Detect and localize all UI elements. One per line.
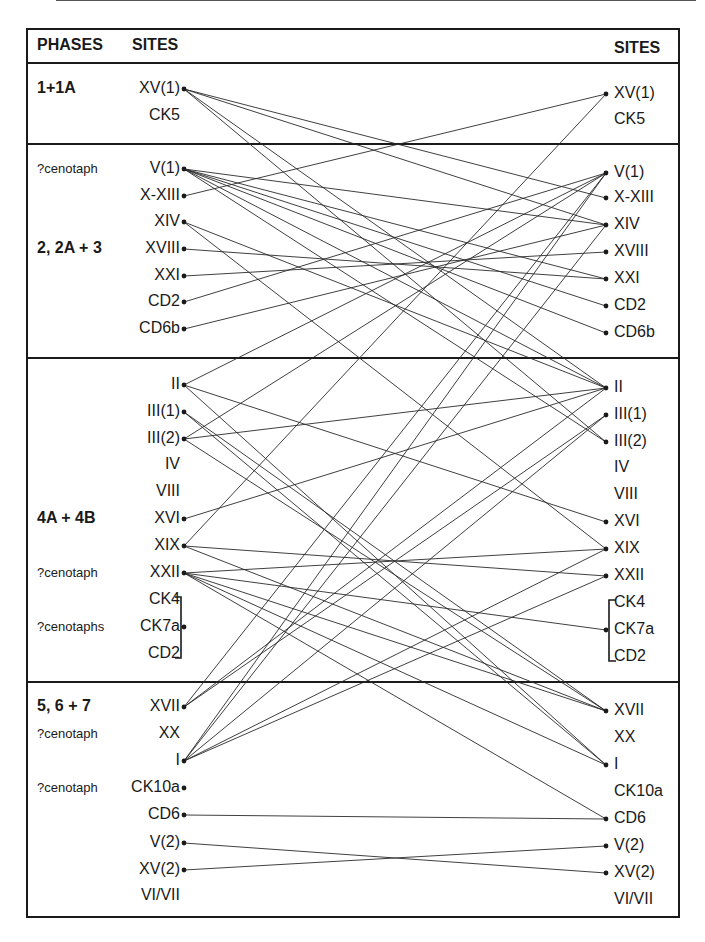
connection-line (184, 415, 606, 707)
site-dot (604, 628, 609, 633)
left-site-label: XVIII (145, 239, 180, 257)
left-site-label: CD2 (148, 292, 180, 310)
site-dot (604, 223, 609, 228)
right-site-label: XVI (614, 512, 640, 530)
site-dot (604, 304, 609, 309)
connection-line (184, 549, 606, 761)
left-site-label: CD6 (148, 805, 180, 823)
connection-line (184, 388, 606, 707)
right-site-label: XXI (614, 269, 640, 287)
left-site-label: XVII (150, 697, 180, 715)
left-site-label: X-XIII (140, 186, 180, 204)
right-site-label: CK7a (614, 620, 654, 638)
left-site-label: CD2 (148, 644, 180, 662)
site-dot (604, 440, 609, 445)
connection-line (184, 388, 606, 519)
left-site-label: XXII (150, 563, 180, 581)
right-site-label: VIII (614, 485, 638, 503)
connection-line (184, 89, 606, 388)
phase-label: 1+1A (37, 79, 76, 97)
left-site-label: VI/VII (141, 886, 180, 904)
connection-line (184, 846, 606, 870)
site-dot (182, 544, 187, 549)
right-site-label: XIV (614, 215, 640, 233)
connection-line (184, 169, 606, 333)
site-dot (182, 786, 187, 791)
site-dot (604, 250, 609, 255)
site-dot (182, 437, 187, 442)
right-site-label: VI/VII (614, 890, 653, 908)
left-site-label: V(1) (150, 159, 180, 177)
cenotaph-note: ?cenotaph (37, 565, 98, 580)
site-dot (604, 574, 609, 579)
site-dot (604, 547, 609, 552)
site-dot (604, 171, 609, 176)
right-site-label: I (614, 755, 618, 773)
site-dot (182, 300, 187, 305)
cenotaph-note: ?cenotaph (37, 780, 98, 795)
right-site-label: IV (614, 458, 629, 476)
cenotaph-note: ?cenotaph (37, 161, 98, 176)
site-dot (182, 327, 187, 332)
site-dot (182, 220, 187, 225)
connection-line (184, 815, 606, 819)
site-dot (182, 759, 187, 764)
left-site-label: II (171, 375, 180, 393)
left-site-label: XV(2) (139, 860, 180, 878)
connection-line (184, 169, 606, 279)
site-dot (182, 517, 187, 522)
connection-line (184, 173, 606, 302)
left-site-label: CK7a (140, 617, 180, 635)
site-dot (182, 383, 187, 388)
left-site-label: CD6b (139, 319, 180, 337)
phase-label: 2, 2A + 3 (37, 239, 102, 257)
left-site-label: V(2) (150, 833, 180, 851)
site-dot (604, 386, 609, 391)
site-dot (182, 247, 187, 252)
right-site-label: XXII (614, 566, 644, 584)
site-dot (182, 87, 187, 92)
site-dot (182, 625, 187, 630)
connection-line (184, 252, 606, 276)
cenotaph-note: ?cenotaph (37, 726, 98, 741)
site-dot (182, 194, 187, 199)
right-site-label: CD2 (614, 647, 646, 665)
site-dot (182, 274, 187, 279)
connection-line (184, 169, 606, 225)
connection-line (184, 89, 606, 198)
left-site-label: III(2) (147, 429, 180, 447)
right-site-label: CK4 (614, 593, 645, 611)
site-dot (604, 709, 609, 714)
right-site-label: XVIII (614, 242, 649, 260)
connection-line (184, 225, 606, 329)
left-site-label: XXI (154, 266, 180, 284)
left-site-label: CK10a (131, 778, 180, 796)
right-site-label: III(2) (614, 432, 647, 450)
site-dot (604, 277, 609, 282)
right-site-label: V(1) (614, 163, 644, 181)
right-site-label: CK5 (614, 110, 645, 128)
right-site-label: CD6b (614, 323, 655, 341)
left-site-label: IV (165, 455, 180, 473)
right-site-label: CD2 (614, 296, 646, 314)
right-site-label: XIX (614, 539, 640, 557)
connection-lines (0, 0, 705, 942)
left-site-label: I (176, 751, 180, 769)
right-site-label: X-XIII (614, 188, 654, 206)
right-site-label: V(2) (614, 836, 644, 854)
right-site-label: XV(2) (614, 863, 655, 881)
left-site-label: VIII (156, 482, 180, 500)
right-site-label: XVII (614, 701, 644, 719)
connection-line (184, 439, 606, 711)
left-site-label: III(1) (147, 402, 180, 420)
connection-line (184, 222, 606, 549)
cenotaph-note: ?cenotaphs (37, 619, 104, 634)
site-dot (604, 763, 609, 768)
connection-line (184, 546, 606, 711)
left-site-label: XIX (154, 536, 180, 554)
right-site-label: CK10a (614, 782, 663, 800)
site-dot (182, 868, 187, 873)
connection-line (184, 388, 606, 439)
site-dot (182, 705, 187, 710)
site-dot (604, 413, 609, 418)
